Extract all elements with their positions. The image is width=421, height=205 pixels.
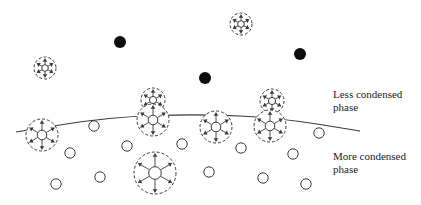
molecule-core: [265, 121, 275, 131]
open-circle: [89, 121, 99, 131]
interface-molecule-stack-b-upper: [260, 89, 284, 113]
open-circle: [301, 179, 311, 189]
open-circle: [204, 167, 214, 177]
label-line: Less condensed: [333, 88, 402, 101]
open-circle: [258, 173, 268, 183]
filled-dot: [114, 36, 126, 48]
free-molecule-top: [230, 13, 252, 35]
interface-molecule-center: [200, 111, 232, 143]
phase-interface-curve: [16, 115, 360, 132]
label-line: phase: [333, 163, 406, 176]
interface-molecule-stack-a-lower: [137, 104, 169, 136]
molecule-core: [149, 96, 156, 103]
label-less-condensed-phase: Less condensed phase: [333, 88, 402, 114]
open-circle: [177, 139, 187, 149]
molecule-core: [37, 130, 47, 140]
molecule-core: [211, 122, 221, 132]
interface-molecule-left: [26, 119, 58, 151]
open-circle: [51, 179, 61, 189]
interface-molecule-stack-b-lower: [254, 110, 286, 142]
molecule-core: [148, 115, 158, 125]
bulk-molecule-large: [134, 152, 176, 194]
open-circle: [65, 148, 75, 158]
molecule-core: [149, 167, 162, 180]
filled-dot: [294, 48, 306, 60]
filled-dots-group: [114, 36, 306, 84]
molecule-core: [268, 97, 275, 104]
label-more-condensed-phase: More condensed phase: [333, 150, 406, 176]
open-circle: [288, 149, 298, 159]
open-circle: [95, 172, 105, 182]
molecule-core: [238, 21, 245, 28]
molecule-core: [42, 65, 49, 72]
label-line: phase: [333, 101, 402, 114]
free-molecule-left: [34, 57, 56, 79]
expanded-molecules-group: [26, 13, 286, 194]
open-circle: [236, 143, 246, 153]
open-circle: [122, 141, 132, 151]
open-circle: [314, 128, 324, 138]
filled-dot: [199, 72, 211, 84]
label-line: More condensed: [333, 150, 406, 163]
